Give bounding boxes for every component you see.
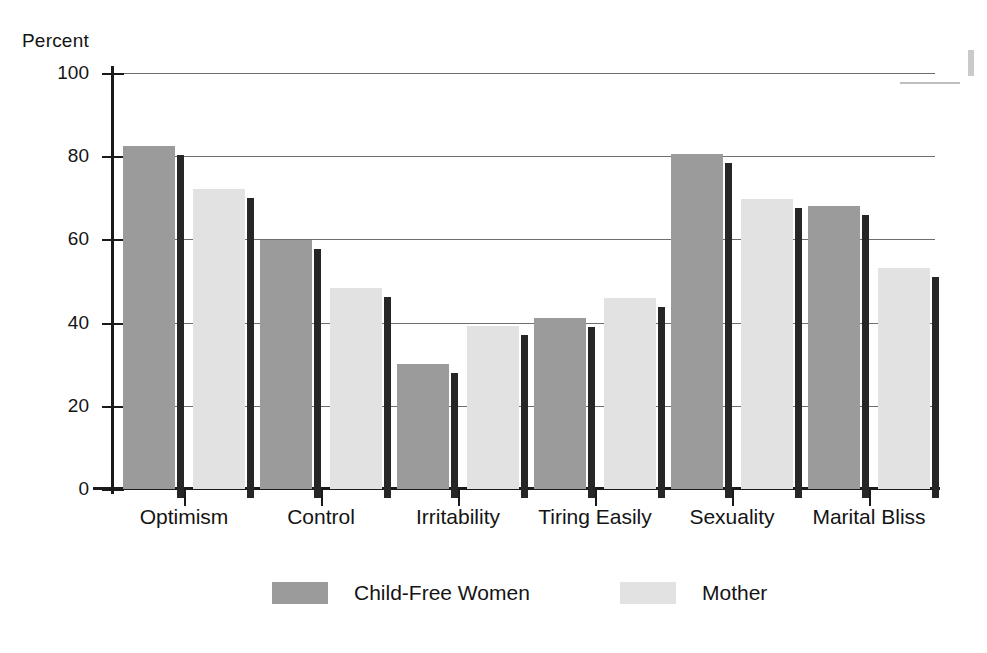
bar-shadow bbox=[521, 335, 528, 498]
bar-0-5 bbox=[808, 206, 860, 489]
x-axis-label-0: Optimism bbox=[140, 505, 229, 529]
scan-artifact-line bbox=[900, 82, 960, 84]
bar-fill bbox=[604, 298, 656, 489]
y-tick-label-40: 40 bbox=[68, 312, 89, 334]
bar-chart: Percent 020406080100 OptimismControlIrri… bbox=[0, 0, 987, 653]
bar-shadow bbox=[588, 327, 595, 498]
bar-0-0 bbox=[123, 146, 175, 489]
y-tick-0 bbox=[102, 489, 124, 491]
bar-shadow bbox=[932, 277, 939, 498]
x-tick-5 bbox=[869, 489, 871, 506]
legend-swatch-1 bbox=[620, 582, 676, 604]
bar-0-4 bbox=[671, 154, 723, 489]
y-tick-label-20: 20 bbox=[68, 395, 89, 417]
y-tick-label-0: 0 bbox=[78, 478, 89, 500]
y-axis-title: Percent bbox=[22, 30, 89, 52]
bar-shadow bbox=[384, 297, 391, 498]
bar-1-3 bbox=[604, 298, 656, 489]
bar-shadow bbox=[658, 307, 665, 498]
scan-artifact-mark bbox=[968, 50, 974, 76]
y-tick-80 bbox=[102, 156, 124, 158]
bar-1-1 bbox=[330, 288, 382, 489]
bar-0-3 bbox=[534, 318, 586, 489]
y-tick-20 bbox=[102, 406, 124, 408]
x-tick-3 bbox=[595, 489, 597, 506]
bar-fill bbox=[397, 364, 449, 489]
x-tick-4 bbox=[732, 489, 734, 506]
plot-area: 020406080100 bbox=[113, 73, 935, 489]
legend-item-0: Child-Free Women bbox=[272, 581, 530, 605]
x-tick-0 bbox=[184, 489, 186, 506]
bar-fill bbox=[467, 326, 519, 489]
bar-shadow bbox=[177, 155, 184, 498]
bar-fill bbox=[330, 288, 382, 489]
x-tick-2 bbox=[458, 489, 460, 506]
bar-fill bbox=[671, 154, 723, 489]
bar-0-1 bbox=[260, 240, 312, 489]
x-tick-1 bbox=[321, 489, 323, 506]
legend-label-1: Mother bbox=[702, 581, 767, 605]
bar-fill bbox=[534, 318, 586, 489]
bar-shadow bbox=[247, 198, 254, 498]
bar-0-2 bbox=[397, 364, 449, 489]
bar-shadow bbox=[314, 249, 321, 498]
bar-shadow bbox=[725, 163, 732, 498]
bar-1-2 bbox=[467, 326, 519, 489]
bar-shadow bbox=[451, 373, 458, 498]
x-axis-label-4: Sexuality bbox=[689, 505, 774, 529]
chart-legend: Child-Free WomenMother bbox=[0, 575, 987, 615]
gridline-80 bbox=[113, 156, 935, 157]
bar-fill bbox=[878, 268, 930, 489]
bar-fill bbox=[123, 146, 175, 489]
x-axis-label-3: Tiring Easily bbox=[538, 505, 652, 529]
bar-1-0 bbox=[193, 189, 245, 489]
x-axis-label-2: Irritability bbox=[416, 505, 500, 529]
y-tick-label-60: 60 bbox=[68, 228, 89, 250]
y-tick-60 bbox=[102, 239, 124, 241]
bar-shadow bbox=[795, 208, 802, 498]
bar-fill bbox=[260, 240, 312, 489]
legend-item-1: Mother bbox=[620, 581, 767, 605]
bar-1-4 bbox=[741, 199, 793, 489]
legend-label-0: Child-Free Women bbox=[354, 581, 530, 605]
bar-fill bbox=[808, 206, 860, 489]
gridline-100 bbox=[113, 73, 935, 74]
y-tick-40 bbox=[102, 323, 124, 325]
y-tick-100 bbox=[102, 73, 124, 75]
bar-fill bbox=[193, 189, 245, 489]
bar-1-5 bbox=[878, 268, 930, 489]
x-axis-label-5: Marital Bliss bbox=[812, 505, 925, 529]
x-axis-label-1: Control bbox=[287, 505, 355, 529]
bar-shadow bbox=[862, 215, 869, 498]
y-tick-label-100: 100 bbox=[57, 62, 89, 84]
legend-swatch-0 bbox=[272, 582, 328, 604]
bar-fill bbox=[741, 199, 793, 489]
y-tick-label-80: 80 bbox=[68, 145, 89, 167]
